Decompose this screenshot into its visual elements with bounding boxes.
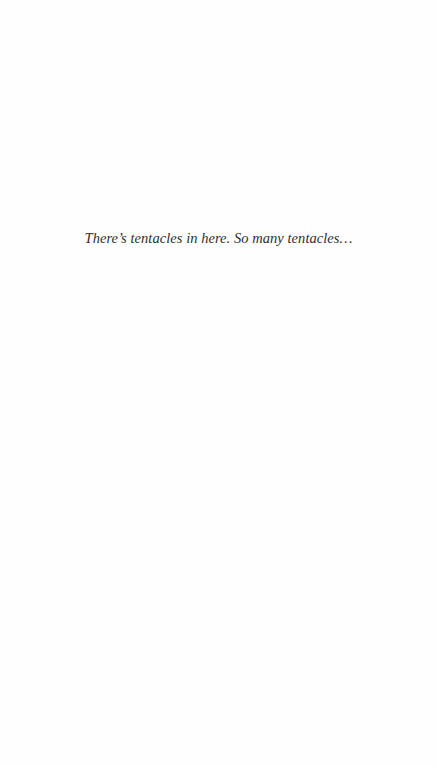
book-page: There’s tentacles in here. So many tenta… (0, 0, 437, 766)
epigraph-text: There’s tentacles in here. So many tenta… (0, 229, 437, 247)
